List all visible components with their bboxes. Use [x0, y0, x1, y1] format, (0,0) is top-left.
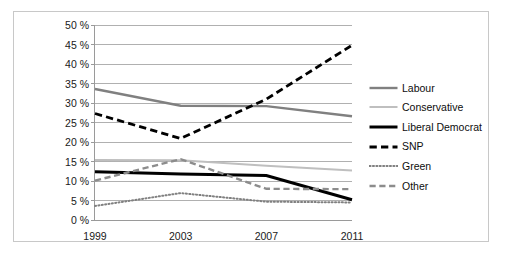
y-axis-tick-label: 10 % — [65, 175, 89, 187]
legend-label: Conservative — [402, 102, 463, 113]
series-line-liberal-democrat — [95, 172, 352, 200]
y-axis-tick-label: 45 % — [65, 39, 89, 51]
legend-label: Other — [402, 181, 428, 192]
legend-swatch-icon — [369, 101, 398, 113]
y-axis-tick-label: 35 % — [65, 78, 89, 90]
legend-swatch-icon — [369, 82, 398, 94]
y-axis-tick-label: 25 % — [65, 117, 89, 129]
legend-label: Labour — [402, 83, 435, 94]
legend-item-conservative[interactable]: Conservative — [369, 98, 489, 118]
legend-swatch-icon — [369, 180, 398, 192]
y-axis-tick-label: 40 % — [65, 58, 89, 70]
legend-label: Green — [402, 161, 431, 172]
series-line-conservative — [95, 160, 352, 171]
x-axis-tick-label: 2011 — [341, 230, 364, 242]
series-line-green — [95, 193, 352, 206]
legend-item-labour[interactable]: Labour — [369, 78, 489, 98]
y-axis-tick-label: 15 % — [65, 156, 89, 168]
legend-item-green[interactable]: Green — [369, 156, 489, 176]
legend-label: SNP — [402, 141, 424, 152]
legend-label: Liberal Democrat — [402, 122, 482, 133]
y-axis-tick-label: 5 % — [71, 195, 89, 207]
series-lines — [95, 25, 352, 220]
series-line-snp — [95, 45, 352, 138]
legend-item-liberal-democrat[interactable]: Liberal Democrat — [369, 117, 489, 137]
legend-swatch-icon — [369, 141, 398, 153]
x-axis-tick-label: 2003 — [169, 230, 192, 242]
chart-frame: 0 %5 %10 %15 %20 %25 %30 %35 %40 %45 %50… — [13, 11, 489, 242]
legend-item-other[interactable]: Other — [369, 176, 489, 196]
y-axis-tick-label: 20 % — [65, 136, 89, 148]
y-axis-tick-label: 30 % — [65, 97, 89, 109]
plot-area: 0 %5 %10 %15 %20 %25 %30 %35 %40 %45 %50… — [95, 25, 352, 220]
y-axis-tick-label: 0 % — [71, 214, 89, 226]
chart-canvas: 0 %5 %10 %15 %20 %25 %30 %35 %40 %45 %50… — [14, 12, 488, 241]
legend-item-snp[interactable]: SNP — [369, 137, 489, 157]
x-axis-tick-label: 2007 — [255, 230, 278, 242]
chart-legend: LabourConservativeLiberal DemocratSNPGre… — [369, 78, 489, 196]
x-axis-tick-label: 1999 — [83, 230, 106, 242]
series-line-labour — [95, 89, 352, 116]
legend-swatch-icon — [369, 121, 398, 133]
legend-swatch-icon — [369, 160, 398, 172]
y-axis-tick-label: 50 % — [65, 19, 89, 31]
